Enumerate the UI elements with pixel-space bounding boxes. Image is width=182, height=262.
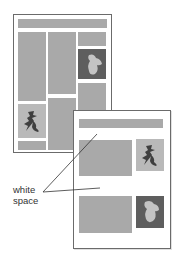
column-2-text-block-bottom (48, 98, 76, 150)
row-2-text-block (79, 196, 132, 233)
blob-image (136, 196, 164, 228)
column-2-text-block-top (48, 32, 76, 94)
spacious-page (73, 110, 171, 249)
white-space-label: white space (13, 184, 38, 206)
blob-image-icon (78, 49, 106, 79)
column-1-small-block (18, 141, 46, 150)
label-line-1: white (13, 184, 38, 195)
column-1-text-block (18, 32, 46, 101)
calligraphy-image (18, 104, 46, 138)
header-bar (79, 119, 163, 128)
calligraphy-image (136, 139, 164, 171)
label-line-2: space (13, 195, 38, 206)
blob-image-icon (136, 196, 164, 228)
row-1-text-block (79, 140, 132, 176)
calligraphy-image-icon (18, 104, 46, 138)
calligraphy-image-icon (136, 139, 164, 171)
column-3-small-block (78, 32, 106, 46)
header-bar (18, 19, 107, 28)
blob-image (78, 49, 106, 79)
